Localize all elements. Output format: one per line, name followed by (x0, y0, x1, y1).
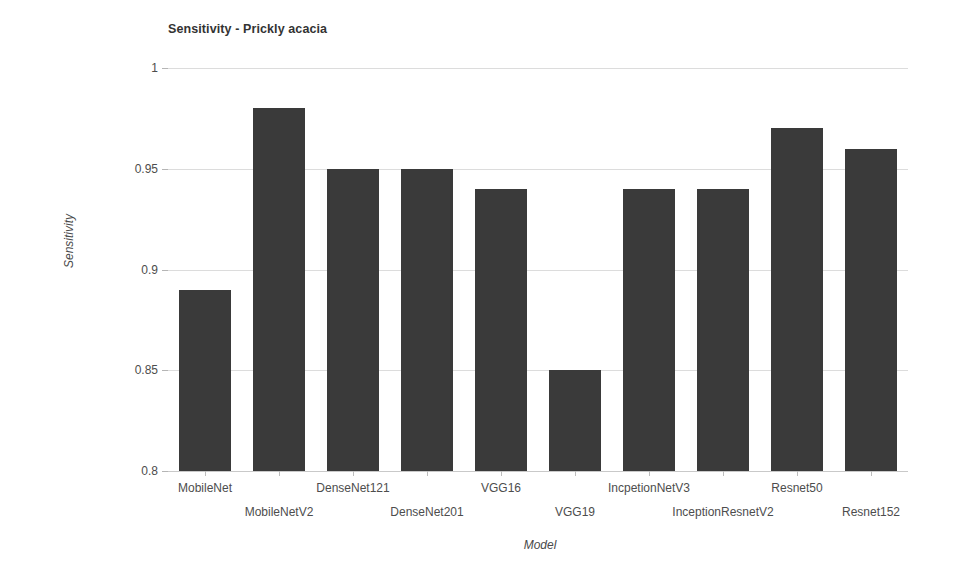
y-axis-tick-label: 0.85 (102, 363, 158, 377)
x-axis-tick-label: Resnet50 (771, 481, 822, 495)
x-axis-tick-label: Resnet152 (842, 505, 900, 519)
x-axis-title: Model (0, 538, 956, 552)
x-axis-tick-label: IncpetionNetV3 (608, 481, 690, 495)
plot-area (168, 68, 908, 471)
y-axis-tick-label: 1 (102, 61, 158, 75)
y-axis-tick-label: 0.8 (102, 464, 158, 478)
x-axis-tick-label: MobileNetV2 (245, 505, 314, 519)
x-axis-tick-label: InceptionResnetV2 (672, 505, 773, 519)
bar[interactable] (253, 108, 305, 471)
bar[interactable] (475, 189, 527, 471)
bar[interactable] (401, 169, 453, 471)
x-axis-tick-label: DenseNet201 (390, 505, 463, 519)
y-axis-title: Sensitivity (62, 171, 76, 311)
x-axis-tick-label: VGG16 (481, 481, 521, 495)
y-axis-tick-labels: 0.80.850.90.951 (102, 68, 158, 471)
gridline (168, 68, 908, 69)
x-axis-tick-label: VGG19 (555, 505, 595, 519)
x-axis-tick-labels: MobileNetMobileNetV2DenseNet121DenseNet2… (168, 471, 908, 531)
bar[interactable] (549, 370, 601, 471)
chart-title: Sensitivity - Prickly acacia (168, 22, 327, 36)
bar[interactable] (697, 189, 749, 471)
x-axis-tick-label: DenseNet121 (316, 481, 389, 495)
bar[interactable] (845, 149, 897, 471)
y-axis-tick-label: 0.95 (102, 162, 158, 176)
y-axis-tick-label: 0.9 (102, 263, 158, 277)
bar[interactable] (179, 290, 231, 471)
bar[interactable] (623, 189, 675, 471)
x-axis-tick-label: MobileNet (178, 481, 232, 495)
bar[interactable] (327, 169, 379, 471)
chart-figure: Sensitivity - Prickly acacia Sensitivity… (0, 0, 956, 564)
bar[interactable] (771, 128, 823, 471)
